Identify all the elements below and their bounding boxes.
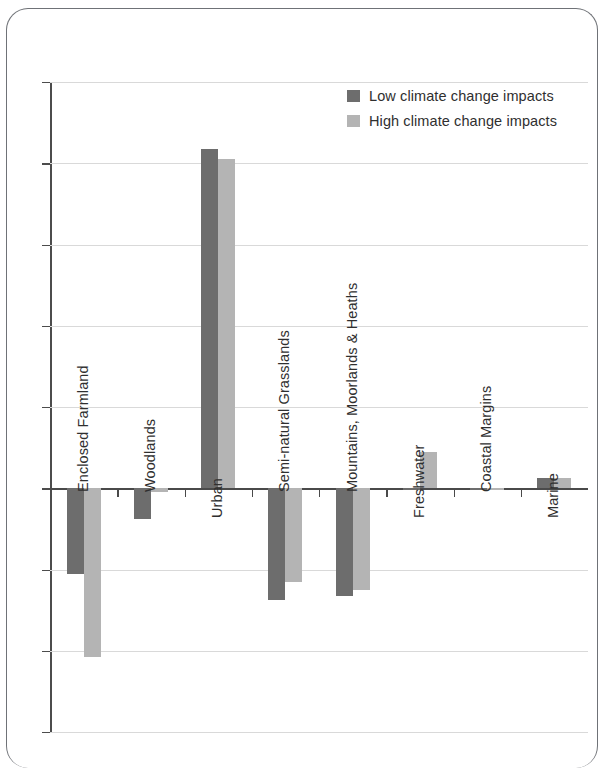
x-tick-mark [454, 488, 455, 497]
bar [336, 488, 353, 596]
legend-label-high: High climate change impacts [369, 113, 557, 129]
legend-item-high: High climate change impacts [347, 113, 577, 129]
x-tick-mark [319, 488, 320, 497]
bar [218, 159, 235, 488]
x-tick-mark [117, 488, 118, 497]
bar [134, 488, 151, 518]
gridline [50, 326, 588, 327]
category-label: Woodlands [142, 419, 158, 492]
category-label: Marine [545, 473, 561, 518]
bar [268, 488, 285, 600]
category-label: Coastal Margins [478, 386, 494, 492]
bar-group [134, 82, 168, 732]
bar-group [537, 82, 571, 732]
chart-legend: Low climate change impacts High climate … [347, 88, 577, 138]
legend-swatch-high [347, 115, 360, 127]
legend-swatch-low [347, 90, 360, 102]
x-tick-mark [252, 488, 253, 497]
gridline [50, 163, 588, 164]
plot-area: Enclosed FarmlandWoodlandsUrbanSemi-natu… [50, 82, 588, 732]
gridline [50, 570, 588, 571]
bar [353, 488, 370, 590]
bar [285, 488, 302, 581]
category-label: Semi-natural Grasslands [276, 330, 292, 492]
gridline [50, 82, 588, 83]
legend-item-low: Low climate change impacts [347, 88, 577, 104]
bar [67, 488, 84, 573]
bar [201, 149, 218, 488]
category-label: Urban [209, 478, 225, 518]
bar-chart: 10%8%6%4%2%0%-2%-4%-6% Enclosed Farmland… [0, 0, 605, 779]
x-tick-mark [386, 488, 387, 497]
bar [84, 488, 101, 657]
category-label: Enclosed Farmland [75, 366, 91, 493]
category-label: Freshwater [411, 445, 427, 519]
gridline [50, 732, 588, 733]
x-tick-mark [521, 488, 522, 497]
gridline [50, 245, 588, 246]
bar-group [403, 82, 437, 732]
legend-label-low: Low climate change impacts [369, 88, 554, 104]
x-tick-mark [185, 488, 186, 497]
gridline [50, 651, 588, 652]
category-label: Mountains, Moorlands & Heaths [344, 283, 360, 492]
bar-group [201, 82, 235, 732]
gridline [50, 407, 588, 408]
